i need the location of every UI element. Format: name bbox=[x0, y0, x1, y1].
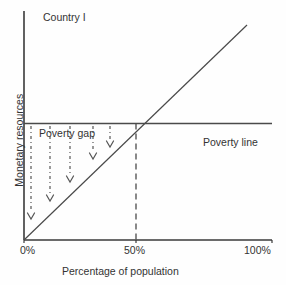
x-axis-label: Percentage of population bbox=[62, 266, 179, 277]
chart-title: Country I bbox=[43, 12, 86, 23]
poverty-gap-label: Poverty gap bbox=[39, 128, 95, 139]
x-tick-label-100: 100% bbox=[244, 244, 271, 256]
x-tick-label-0: 0% bbox=[20, 244, 35, 256]
arrowhead-2 bbox=[47, 195, 54, 201]
poverty-line-label: Poverty line bbox=[203, 137, 258, 148]
arrowhead-1 bbox=[28, 213, 35, 219]
y-axis-label: Monetary resources bbox=[14, 80, 25, 200]
arrowhead-5 bbox=[107, 141, 114, 147]
arrowhead-3 bbox=[67, 176, 74, 182]
arrowhead-4 bbox=[90, 153, 97, 159]
x-tick-label-50: 50% bbox=[124, 244, 145, 256]
poverty-gap-chart: Country I Monetary resources Percentage … bbox=[0, 0, 286, 285]
